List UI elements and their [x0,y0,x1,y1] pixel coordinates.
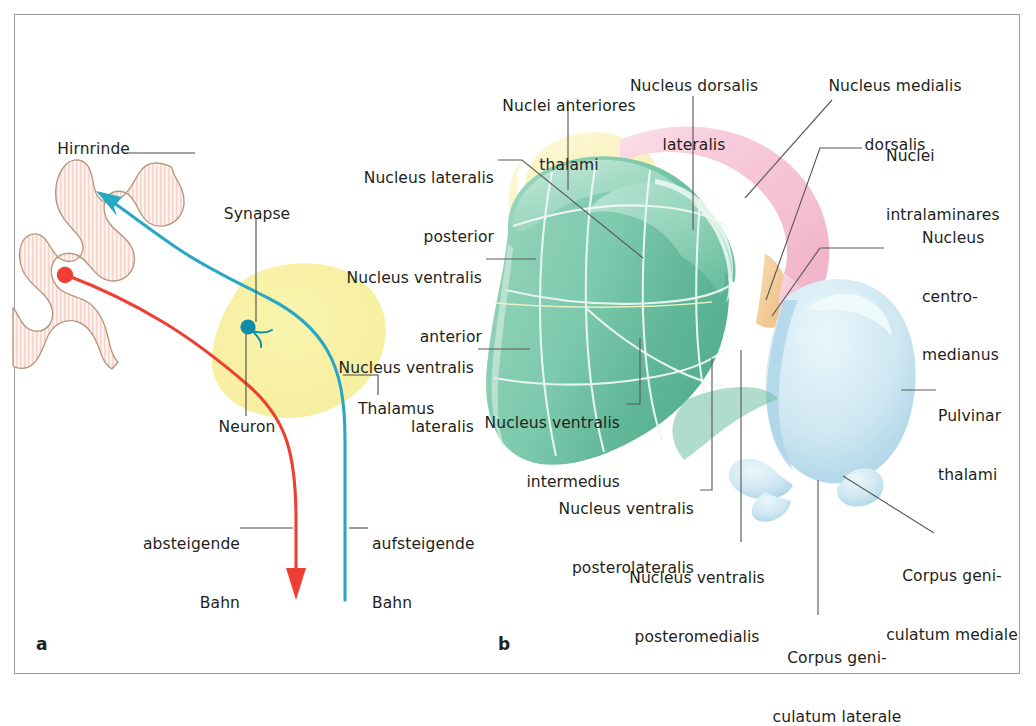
label-nucleus-centro-medianus-line3: medianus [922,346,1032,366]
label-absteigende-bahn-line1: absteigende [124,535,240,555]
label-aufsteigende-bahn-line1: aufsteigende [372,535,502,555]
label-aufsteigende-bahn-line2: Bahn [372,594,502,614]
label-nucleus-lateralis-posterior-line1: Nucleus lateralis [330,169,494,189]
label-nucleus-ventralis-posterolateralis-line1: Nucleus ventralis [524,500,694,520]
label-nucleus-ventralis-lateralis-line2: lateralis [310,418,474,438]
label-nucleus-ventralis-lateralis-line1: Nucleus ventralis [310,359,474,379]
label-nuclei-intralaminares-line1: Nuclei [886,147,1032,167]
label-nucleus-medialis-dorsalis-line1: Nucleus medialis [800,77,990,97]
panel-letter-b: b [498,634,510,654]
label-nucleus-centro-medianus-line2: centro- [922,288,1032,308]
label-nucleus-ventralis-anterior-line1: Nucleus ventralis [318,269,482,289]
label-nucleus-dorsalis-lateralis-line1: Nucleus dorsalis [600,77,788,97]
label-pulvinar-thalami-line2: thalami [938,466,1034,486]
label-pulvinar-thalami: Pulvinar thalami [938,368,1034,524]
label-nucleus-centro-medianus-line1: Nucleus [922,229,1032,249]
label-absteigende-bahn: absteigende Bahn [124,496,240,652]
cortical-neuron-soma [57,267,73,283]
label-corpus-geniculatum-mediale-line1: Corpus geni- [872,567,1032,587]
label-corpus-geniculatum-laterale-line1: Corpus geni- [742,649,932,669]
label-corpus-geniculatum-laterale-line2: culatum laterale [742,708,932,726]
label-nucleus-dorsalis-lateralis-line2: lateralis [600,136,788,156]
label-absteigende-bahn-line2: Bahn [124,594,240,614]
label-synapse: Synapse [198,205,316,225]
label-nucleus-ventralis-posteromedialis-line1: Nucleus ventralis [604,569,790,589]
label-neuron: Neuron [188,418,306,438]
label-hirnrinde: Hirnrinde [18,140,130,160]
descending-tract-arrowhead [286,568,306,600]
label-nucleus-ventralis-lateralis: Nucleus ventralis lateralis [310,320,474,476]
label-nucleus-dorsalis-lateralis: Nucleus dorsalis lateralis [600,38,788,194]
panel-letter-a: a [36,634,47,654]
label-pulvinar-thalami-line1: Pulvinar [938,407,1034,427]
label-nucleus-ventralis-intermedius-line1: Nucleus ventralis [456,414,620,434]
corpus-geniculatum-laterale-body [729,459,793,500]
label-corpus-geniculatum-laterale: Corpus geni- culatum laterale [742,610,932,726]
